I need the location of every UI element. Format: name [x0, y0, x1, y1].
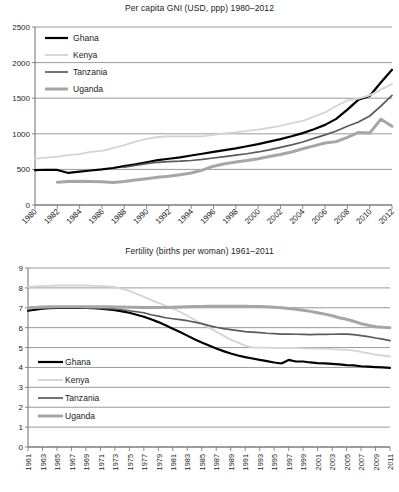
xtick-label: 1973 [111, 454, 120, 470]
xtick-label: 1961 [24, 454, 33, 470]
xtick-label: 2009 [372, 454, 381, 470]
ytick-label: 1000 [12, 130, 30, 139]
xtick-label: 1995 [270, 454, 279, 470]
charts-page: Per capita GNI (USD, ppp) 1980–2012 0500… [0, 0, 399, 492]
xtick-label: 2001 [314, 454, 323, 470]
xtick-label: 1985 [198, 454, 207, 470]
ytick-label: 3 [19, 383, 24, 392]
xtick-label: 1965 [53, 454, 62, 470]
xtick-label: 1977 [140, 454, 149, 470]
ytick-label: 1500 [12, 94, 30, 103]
series-line-uganda [28, 306, 390, 327]
xtick-label: 2007 [357, 454, 366, 470]
xtick-label: 1994 [176, 207, 195, 226]
ytick-label: 8 [19, 284, 24, 293]
xtick-label: 1997 [285, 454, 294, 470]
xtick-label: 2002 [265, 207, 284, 226]
xtick-label: 1981 [169, 454, 178, 470]
xtick-label: 2010 [355, 207, 374, 226]
ytick-label: 6 [19, 324, 24, 333]
xtick-label: 2012 [377, 207, 396, 226]
xtick-label: 1991 [241, 454, 250, 470]
xtick-label: 1971 [97, 454, 106, 470]
xtick-label: 1982 [42, 207, 61, 226]
ytick-label: 9 [19, 264, 24, 273]
legend-label-kenya: Kenya [65, 375, 90, 385]
series-line-tanzania [28, 307, 390, 340]
legend-label-kenya: Kenya [73, 50, 98, 60]
legend-label-ghana: Ghana [73, 33, 99, 43]
xtick-label: 2004 [288, 207, 307, 226]
xtick-label: 1990 [132, 207, 151, 226]
xtick-label: 1963 [39, 454, 48, 470]
xtick-label: 1988 [109, 207, 128, 226]
fertility-chart-svg: 0123456789196119631965196719691971197319… [0, 240, 399, 492]
xtick-label: 1998 [221, 207, 240, 226]
legend-label-uganda: Uganda [65, 411, 95, 421]
xtick-label: 1999 [299, 454, 308, 470]
ytick-label: 7 [19, 304, 24, 313]
xtick-label: 1967 [68, 454, 77, 470]
legend-label-uganda: Uganda [73, 84, 103, 94]
xtick-label: 1996 [198, 207, 217, 226]
xtick-label: 1969 [82, 454, 91, 470]
ytick-label: 1 [19, 423, 24, 432]
ytick-label: 0 [19, 443, 24, 452]
legend-label-ghana: Ghana [65, 357, 91, 367]
gni-chart-svg: 0500100015002000250019801982198419861988… [0, 0, 399, 240]
series-line-kenya [35, 84, 392, 159]
xtick-label: 2006 [310, 207, 329, 226]
xtick-label: 2005 [343, 454, 352, 470]
xtick-label: 2008 [332, 207, 351, 226]
xtick-label: 1986 [87, 207, 106, 226]
xtick-label: 1980 [20, 207, 39, 226]
xtick-label: 1984 [65, 207, 84, 226]
ytick-label: 5 [19, 344, 24, 353]
gni-chart-title: Per capita GNI (USD, ppp) 1980–2012 [0, 3, 399, 13]
fertility-chart-title: Fertility (births per woman) 1961–2011 [0, 246, 399, 256]
ytick-label: 2000 [12, 59, 30, 68]
xtick-label: 1983 [183, 454, 192, 470]
xtick-label: 1993 [256, 454, 265, 470]
ytick-label: 2 [19, 403, 24, 412]
xtick-label: 2000 [243, 207, 262, 226]
legend-label-tanzania: Tanzania [73, 67, 108, 77]
legend-label-tanzania: Tanzania [65, 393, 100, 403]
ytick-label: 4 [19, 363, 24, 372]
xtick-label: 1975 [126, 454, 135, 470]
xtick-label: 1987 [212, 454, 221, 470]
xtick-label: 1979 [155, 454, 164, 470]
fertility-chart-block: Fertility (births per woman) 1961–2011 0… [0, 240, 399, 492]
xtick-label: 1989 [227, 454, 236, 470]
ytick-label: 2500 [12, 23, 30, 32]
xtick-label: 1992 [154, 207, 173, 226]
xtick-label: 2011 [386, 454, 395, 470]
ytick-label: 500 [17, 165, 31, 174]
xtick-label: 2003 [328, 454, 337, 470]
gni-chart-block: Per capita GNI (USD, ppp) 1980–2012 0500… [0, 0, 399, 240]
